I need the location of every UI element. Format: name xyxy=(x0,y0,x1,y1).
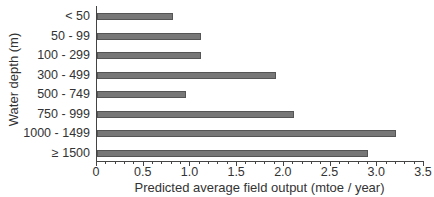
minor-tick xyxy=(208,161,209,164)
minor-tick xyxy=(311,161,312,164)
category-label: 300 - 499 xyxy=(37,68,90,82)
x-tick-label: 1.5 xyxy=(227,165,244,179)
minor-tick xyxy=(339,161,340,164)
minor-tick xyxy=(115,161,116,164)
minor-tick xyxy=(292,161,293,164)
bar xyxy=(97,91,186,98)
x-tick-label: 3.5 xyxy=(414,165,431,179)
category-label: 500 - 749 xyxy=(37,87,90,101)
minor-tick xyxy=(320,161,321,164)
minor-tick xyxy=(404,161,405,164)
minor-tick xyxy=(133,161,134,164)
minor-tick xyxy=(386,161,387,164)
bar xyxy=(97,150,368,157)
bar xyxy=(97,13,173,20)
category-label: 50 - 99 xyxy=(51,29,90,43)
category-label: ≥ 1500 xyxy=(52,146,90,160)
x-tick-label: 2.5 xyxy=(321,165,338,179)
x-axis-label: Predicted average field output (mtoe / y… xyxy=(96,180,423,195)
minor-tick xyxy=(171,161,172,164)
minor-tick xyxy=(152,161,153,164)
minor-tick xyxy=(227,161,228,164)
minor-tick xyxy=(274,161,275,164)
minor-tick xyxy=(105,161,106,164)
x-tick-label: 3.0 xyxy=(368,165,385,179)
minor-tick xyxy=(302,161,303,164)
minor-tick xyxy=(217,161,218,164)
x-tick-label: 2.0 xyxy=(274,165,291,179)
minor-tick xyxy=(245,161,246,164)
minor-tick xyxy=(161,161,162,164)
bar xyxy=(97,130,396,137)
x-tick-label: 0.5 xyxy=(134,165,151,179)
x-tick-label: 1.0 xyxy=(181,165,198,179)
minor-tick xyxy=(255,161,256,164)
y-axis-label: Water depth (m) xyxy=(6,25,21,135)
minor-tick xyxy=(180,161,181,164)
minor-tick xyxy=(264,161,265,164)
x-tick-label: 0 xyxy=(93,165,100,179)
x-axis-line xyxy=(96,161,423,162)
minor-tick xyxy=(367,161,368,164)
bar xyxy=(97,72,276,79)
y-axis-line xyxy=(96,6,97,162)
category-label: < 50 xyxy=(65,9,90,23)
category-label: 1000 - 1499 xyxy=(23,126,90,140)
bar xyxy=(97,111,294,118)
minor-tick xyxy=(124,161,125,164)
category-label: 100 - 299 xyxy=(37,48,90,62)
minor-tick xyxy=(348,161,349,164)
minor-tick xyxy=(199,161,200,164)
bar xyxy=(97,33,201,40)
minor-tick xyxy=(358,161,359,164)
bar xyxy=(97,52,201,59)
minor-tick xyxy=(395,161,396,164)
minor-tick xyxy=(414,161,415,164)
category-label: 750 - 999 xyxy=(37,107,90,121)
